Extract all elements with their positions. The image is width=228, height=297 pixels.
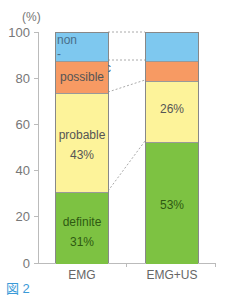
segment-probable: 26% [146,81,198,142]
x-label-emg: EMG [47,268,117,282]
segment-label: definite [56,215,108,229]
segment-definite: 53% [146,142,198,264]
bar-emg-us: 26% 53% [145,32,199,263]
segment-value: 31% [56,235,108,249]
segment-value: 53% [146,198,198,212]
segment-value: 43% [56,148,108,162]
label-non: non [57,33,109,47]
segment-definite: definite 31% [56,192,108,264]
segment-non-diagnostic [146,33,198,61]
x-label-emg-us: EMG+US [137,268,207,282]
segment-label: probable [56,128,108,142]
segment-non-diagnostic: non -diagnostic [56,33,108,61]
segment-possible: possible [56,61,108,93]
segment-probable: probable 43% [56,93,108,192]
segment-label: possible [56,70,108,84]
bar-emg: non -diagnostic possible probable 43% de… [55,32,109,263]
segment-value: 26% [146,102,198,116]
figure-caption: 図 2 [6,278,30,297]
segment-possible [146,61,198,81]
